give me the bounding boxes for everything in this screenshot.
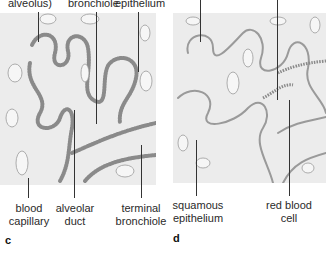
panel-letter-c: c [5, 234, 11, 246]
label-terminal-bronchiole: terminal bronchiole [112, 202, 170, 228]
leader-top-d-2 [277, 0, 278, 100]
leader-alveolar-duct [74, 110, 75, 198]
label-line: blood [6, 202, 52, 215]
lung-tissue-c-drawing [0, 13, 156, 185]
label-alveolus: alveolus) [8, 0, 52, 10]
label-epithelium: epithelium [115, 0, 165, 10]
leader-terminal-bronchiole [141, 145, 142, 198]
label-alveolar-duct: alveolar duct [52, 202, 98, 228]
label-bronchiole: bronchiole [68, 0, 119, 10]
leader-red-blood-cell [289, 100, 290, 196]
panel-letter-d: d [173, 232, 180, 244]
label-line: capillary [6, 215, 52, 228]
leader-blood-capillary [28, 178, 29, 198]
label-line: epithelium [170, 212, 226, 225]
label-line: alveolar [52, 202, 98, 215]
label-line: bronchiole [112, 215, 170, 228]
label-squamous-epithelium: squamous epithelium [170, 199, 226, 225]
label-line: squamous [170, 199, 226, 212]
leader-top-d-1 [200, 0, 201, 42]
label-red-blood-cell: red blood cell [263, 199, 315, 225]
leader-squamous-epithelium [196, 140, 197, 196]
label-line: duct [52, 215, 98, 228]
leader-alveolus [38, 12, 39, 42]
label-blood-capillary: blood capillary [6, 202, 52, 228]
panel-c-illustration [0, 13, 156, 185]
label-line: cell [263, 212, 315, 225]
leader-epithelium [138, 12, 139, 72]
leader-bronchiole [96, 12, 97, 124]
label-line: red blood [263, 199, 315, 212]
label-line: terminal [112, 202, 170, 215]
